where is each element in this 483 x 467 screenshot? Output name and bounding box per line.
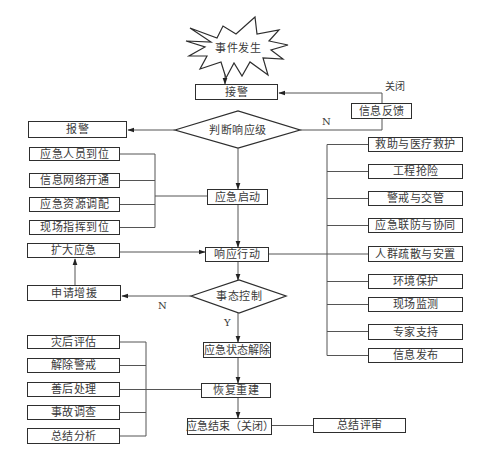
response-task: 救助与医疗救护 bbox=[368, 137, 463, 152]
recovery-task: 善后处理 bbox=[27, 382, 120, 397]
recovery-task: 事故调查 bbox=[27, 405, 120, 420]
emergency-lifted-node: 应急状态解除 bbox=[203, 342, 271, 358]
response-task: 现场监测 bbox=[368, 297, 463, 312]
control-no-edge-label: N bbox=[158, 301, 167, 311]
response-task: 警戒与交管 bbox=[368, 191, 463, 206]
report-alarm-node: 报警 bbox=[28, 121, 127, 138]
recovery-task: 解除警戒 bbox=[27, 358, 120, 373]
startup-task: 应急人员到位 bbox=[29, 147, 120, 161]
situation-control-diamond-shape bbox=[191, 280, 286, 313]
request-reinforcement-node: 申请增援 bbox=[27, 285, 121, 301]
judge-no-edge-label: N bbox=[322, 117, 331, 127]
info-feedback-node: 信息反馈 bbox=[351, 103, 412, 119]
recovery-task: 总结分析 bbox=[27, 428, 120, 444]
startup-task: 应急资源调配 bbox=[29, 197, 120, 212]
startup-task: 现场指挥到位 bbox=[29, 220, 120, 235]
control-yes-edge-label: Y bbox=[224, 318, 231, 328]
event-starburst-shape bbox=[186, 17, 288, 78]
response-action-node: 响应行动 bbox=[205, 247, 269, 262]
response-task: 应急联防与协同 bbox=[368, 218, 463, 233]
recovery-task: 灾后评估 bbox=[27, 335, 120, 349]
judge-level-diamond-shape bbox=[175, 111, 300, 148]
response-task: 人群疏散与安置 bbox=[368, 246, 463, 262]
expand-emergency-node: 扩大应急 bbox=[27, 243, 120, 258]
summary-review-node: 总结评审 bbox=[313, 418, 406, 433]
startup-task: 信息网络开通 bbox=[29, 173, 120, 188]
response-task: 环境保护 bbox=[368, 274, 463, 289]
close-edge-label: 关闭 bbox=[385, 82, 405, 92]
recovery-node: 恢复重建 bbox=[201, 383, 271, 398]
receive-alarm-node: 接警 bbox=[195, 84, 278, 100]
emergency-response-flowchart: 事件发生 接警 判断响应级 报警 信息反馈 关闭 N 应急启动 响应行动 事态控… bbox=[0, 0, 483, 467]
emergency-end-node: 应急结束（关闭） bbox=[187, 418, 272, 435]
response-task: 工程抢险 bbox=[368, 164, 463, 179]
emergency-start-node: 应急启动 bbox=[207, 189, 268, 205]
response-task: 信息发布 bbox=[368, 348, 463, 363]
response-task: 专家支持 bbox=[368, 324, 463, 340]
